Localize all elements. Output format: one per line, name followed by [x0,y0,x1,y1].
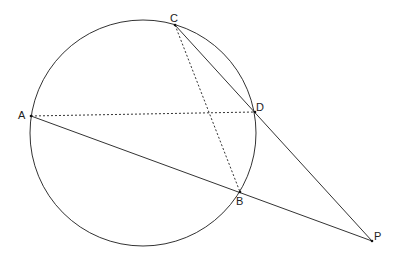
secant-AP [31,116,372,241]
chord-AD-dashed [31,112,255,116]
circle [30,20,256,246]
label-A: A [18,109,26,121]
point-A [30,115,33,118]
point-B [239,191,242,194]
point-P [371,240,374,243]
geometry-diagram: A B C D P [0,0,398,257]
diagram-svg: A B C D P [0,0,398,257]
label-C: C [170,12,178,24]
secant-CP [175,25,372,241]
label-P: P [374,230,381,242]
label-D: D [256,101,264,113]
point-C [174,24,177,27]
label-B: B [236,195,243,207]
chord-CB-dashed [175,25,240,192]
